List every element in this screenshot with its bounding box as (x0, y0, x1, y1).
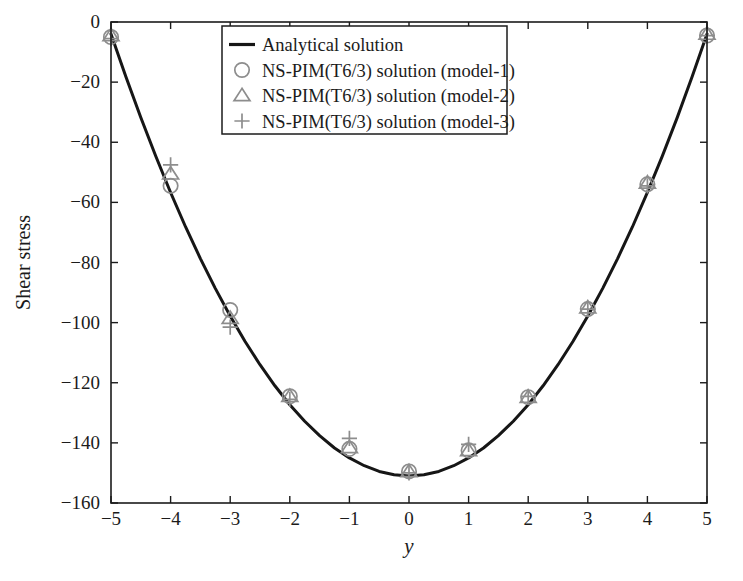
x-tick-label: 5 (702, 508, 712, 529)
marker-plus (223, 320, 238, 335)
chart-figure: −5−4−3−2−10123450−20−40−60−80−100−120−14… (0, 0, 743, 581)
legend-entry[interactable]: NS-PIM(T6/3) solution (model-2) (234, 86, 515, 107)
y-tick-label: −160 (61, 492, 100, 513)
chart-legend: Analytical solutionNS-PIM(T6/3) solution… (222, 26, 515, 134)
shear-stress-plot: −5−4−3−2−10123450−20−40−60−80−100−120−14… (0, 0, 743, 581)
x-tick-label: −2 (280, 508, 300, 529)
legend-entry-label: NS-PIM(T6/3) solution (model-1) (262, 61, 515, 82)
x-tick-label: −5 (101, 508, 121, 529)
x-tick-label: −1 (339, 508, 359, 529)
x-tick-label: 4 (643, 508, 653, 529)
x-tick-label: 0 (404, 508, 414, 529)
legend-entry-label: NS-PIM(T6/3) solution (model-2) (262, 86, 515, 107)
y-tick-label: −100 (61, 312, 100, 333)
x-tick-label: 3 (583, 508, 593, 529)
y-tick-label: −120 (61, 372, 100, 393)
y-tick-label: −80 (70, 252, 100, 273)
marker-plus (461, 437, 476, 452)
legend-entry[interactable]: NS-PIM(T6/3) solution (model-3) (234, 112, 514, 133)
marker-plus (163, 157, 178, 172)
y-axis-label: Shear stress (12, 215, 34, 310)
y-tick-label: −60 (70, 191, 100, 212)
x-tick-label: −3 (220, 508, 240, 529)
legend-entry[interactable]: NS-PIM(T6/3) solution (model-1) (235, 61, 515, 82)
x-axis-label: y (402, 534, 414, 558)
y-tick-label: −140 (61, 432, 100, 453)
x-tick-label: 2 (523, 508, 533, 529)
x-tick-label: −4 (160, 508, 181, 529)
marker-plus (282, 392, 297, 407)
legend-entry-label: Analytical solution (262, 35, 403, 55)
y-tick-label: 0 (91, 11, 101, 32)
y-tick-label: −40 (70, 131, 100, 152)
x-tick-label: 1 (464, 508, 474, 529)
legend-entry-label: NS-PIM(T6/3) solution (model-3) (262, 112, 515, 133)
y-tick-label: −20 (70, 71, 100, 92)
